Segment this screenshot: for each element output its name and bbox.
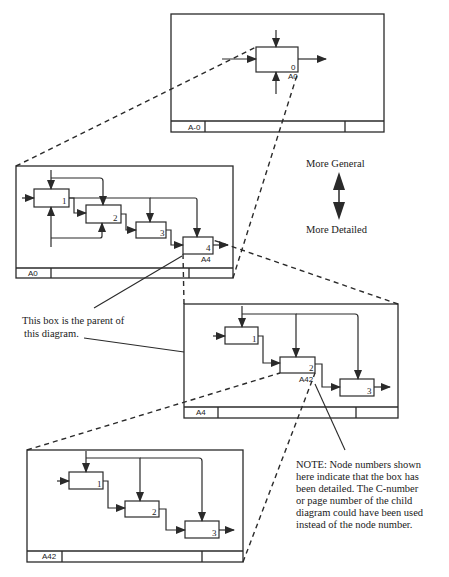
double-arrow-icon xyxy=(333,172,345,220)
box-number: 1 xyxy=(97,479,102,489)
diagram-frame-a0: A0 1 2 3 4 A4 xyxy=(16,166,233,278)
parent-annotation: This box is the parent of this diagram. xyxy=(22,315,125,339)
box-number: 1 xyxy=(252,334,257,344)
svg-text:here indicate that the box has: here indicate that the box has xyxy=(296,471,419,482)
node-label: A-0 xyxy=(188,123,201,132)
svg-text:instead of the node number.: instead of the node number. xyxy=(296,519,412,530)
node-label: A0 xyxy=(28,269,38,278)
activity-box-4: 4 A4 xyxy=(183,237,213,264)
svg-text:NOTE: Node numbers shown: NOTE: Node numbers shown xyxy=(296,459,422,470)
box-number: 3 xyxy=(367,386,372,396)
svg-text:This box is the parent of: This box is the parent of xyxy=(22,315,125,326)
box-number: 4 xyxy=(206,243,211,253)
legend-more-general: More General xyxy=(306,158,365,169)
activity-box-2: 2 A42 xyxy=(280,357,315,384)
parent-leader-line-to-frame xyxy=(84,338,184,352)
idef0-decomposition-diagram: A-0 0 A0 A0 1 2 3 4 A4 xyxy=(0,0,449,577)
box-number: 0 xyxy=(291,63,296,72)
activity-box-2: 2 xyxy=(86,205,121,223)
activity-box-2: 2 xyxy=(125,501,159,517)
node-number-note: NOTE: Node numbers shown here indicate t… xyxy=(296,459,424,530)
box-number: 3 xyxy=(212,528,217,538)
box-number: 2 xyxy=(113,213,118,223)
diagram-frame-a42: A42 1 2 3 xyxy=(27,450,243,562)
box-number: 2 xyxy=(309,363,314,373)
box-number: 3 xyxy=(160,228,165,238)
legend-more-detailed: More Detailed xyxy=(306,224,368,235)
svg-text:or page number of the child: or page number of the child xyxy=(296,495,413,506)
child-ref: A4 xyxy=(201,255,211,264)
activity-box-1: 1 xyxy=(225,327,258,344)
diagram-frame-a4: A4 1 2 A42 3 xyxy=(184,304,398,418)
parent-leader-line-to-box xyxy=(94,256,182,308)
box-number: 1 xyxy=(62,196,67,206)
activity-box-3: 3 xyxy=(185,521,219,538)
svg-text:been detailed. The C-number: been detailed. The C-number xyxy=(296,483,419,494)
activity-box-0: 0 A0 xyxy=(256,47,298,81)
node-label: A4 xyxy=(196,408,206,417)
hierarchy-legend: More General More Detailed xyxy=(306,158,368,235)
node-label: A42 xyxy=(42,552,57,561)
svg-text:diagram could have been used: diagram could have been used xyxy=(296,507,424,518)
activity-box-3: 3 xyxy=(340,379,374,396)
activity-box-1: 1 xyxy=(69,472,103,489)
activity-box-3: 3 xyxy=(136,222,166,238)
box-number: 2 xyxy=(152,507,157,517)
activity-box-1: 1 xyxy=(34,189,69,207)
svg-text:this diagram.: this diagram. xyxy=(24,328,79,339)
